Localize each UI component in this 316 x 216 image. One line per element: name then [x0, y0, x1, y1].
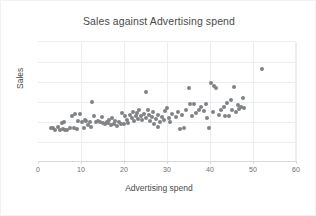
- x-axis-title: Advertising spend: [1, 183, 316, 193]
- data-point: [137, 108, 141, 112]
- data-point: [205, 116, 209, 120]
- gridline-vertical: [253, 42, 254, 161]
- data-point: [174, 115, 178, 119]
- x-tick-mark: [167, 161, 168, 164]
- data-point: [242, 106, 246, 110]
- plot-area: [38, 41, 296, 161]
- data-point: [78, 112, 82, 116]
- data-point: [214, 86, 218, 90]
- data-point: [131, 110, 135, 114]
- gridline-vertical: [210, 42, 211, 161]
- data-point: [211, 110, 215, 114]
- x-tick-label: 0: [23, 166, 53, 173]
- y-axis-title: Sales: [15, 68, 25, 89]
- x-tick-mark: [38, 161, 39, 164]
- data-point: [89, 125, 93, 129]
- x-tick-mark: [296, 161, 297, 164]
- data-point: [192, 102, 196, 106]
- x-tick-label: 50: [238, 166, 268, 173]
- data-point: [151, 110, 155, 114]
- data-point: [260, 67, 264, 71]
- data-point: [202, 109, 206, 113]
- data-point: [62, 120, 66, 124]
- data-point: [82, 126, 86, 130]
- data-point: [156, 125, 160, 129]
- x-tick-mark: [124, 161, 125, 164]
- x-tick-label: 20: [109, 166, 139, 173]
- data-point: [194, 111, 198, 115]
- data-point: [73, 112, 77, 116]
- data-point: [241, 96, 245, 100]
- chart-title: Sales against Advertising spend: [1, 15, 316, 27]
- data-point: [75, 127, 79, 131]
- data-point: [165, 106, 169, 110]
- x-tick-label: 10: [66, 166, 96, 173]
- gridline-vertical: [296, 42, 297, 161]
- data-point: [182, 126, 186, 130]
- x-tick-mark: [210, 161, 211, 164]
- data-point: [232, 85, 236, 89]
- x-tick-label: 40: [195, 166, 225, 173]
- gridline-vertical: [81, 42, 82, 161]
- x-tick-label: 30: [152, 166, 182, 173]
- data-point: [150, 115, 154, 119]
- data-point: [88, 120, 92, 124]
- data-point: [187, 86, 191, 90]
- data-point: [126, 121, 130, 125]
- data-point: [234, 110, 238, 114]
- data-point: [144, 90, 148, 94]
- x-tick-label: 60: [281, 166, 311, 173]
- x-tick-mark: [81, 161, 82, 164]
- scatter-chart: Sales against Advertising spend 01020304…: [0, 0, 316, 216]
- data-point: [222, 105, 226, 109]
- data-point: [184, 108, 188, 112]
- gridline-vertical: [124, 42, 125, 161]
- x-tick-mark: [253, 161, 254, 164]
- data-point: [100, 115, 104, 119]
- data-point: [217, 113, 221, 117]
- gridline-vertical: [167, 42, 168, 161]
- data-point: [227, 114, 231, 118]
- data-point: [190, 114, 194, 118]
- data-point: [180, 113, 184, 117]
- data-point: [92, 114, 96, 118]
- data-point: [146, 108, 150, 112]
- data-point: [204, 102, 208, 106]
- data-point: [90, 100, 94, 104]
